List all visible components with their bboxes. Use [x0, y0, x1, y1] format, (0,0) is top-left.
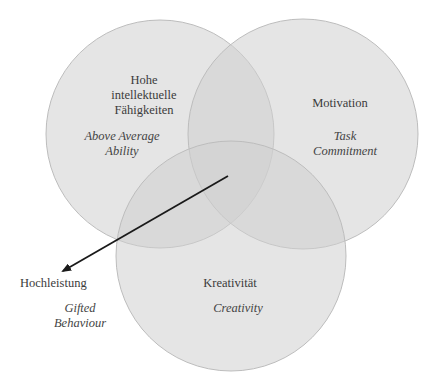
ability-label-en: Above Average Ability: [62, 129, 182, 159]
motivation-label-en: Task Commitment: [305, 129, 385, 159]
motivation-label-en-line1: Task: [305, 129, 385, 144]
ability-label-de: Hohe intellektuelle Fähigkeiten: [104, 73, 184, 118]
outcome-label-en-line2: Behaviour: [45, 316, 115, 331]
outcome-label-de: Hochleistung: [20, 276, 87, 291]
ability-label-en-line2: Ability: [62, 144, 182, 159]
three-ring-diagram: Hohe intellektuelle Fähigkeiten Above Av…: [0, 0, 434, 388]
ability-label-en-line1: Above Average: [62, 129, 182, 144]
outcome-label-en-line1: Gifted: [45, 301, 115, 316]
creativity-label-en-line1: Creativity: [198, 301, 278, 316]
creativity-label-de-line1: Kreativität: [190, 276, 270, 291]
ability-label-de-line3: Fähigkeiten: [104, 103, 184, 118]
circle-creativity: [116, 141, 346, 371]
creativity-label-de: Kreativität: [190, 276, 270, 291]
motivation-label-en-line2: Commitment: [305, 144, 385, 159]
ability-label-de-line1: Hohe: [104, 73, 184, 88]
motivation-label-de-line1: Motivation: [300, 96, 380, 111]
ability-label-de-line2: intellektuelle: [104, 88, 184, 103]
creativity-label-en: Creativity: [198, 301, 278, 316]
motivation-label-de: Motivation: [300, 96, 380, 111]
outcome-label-en: Gifted Behaviour: [45, 301, 115, 331]
